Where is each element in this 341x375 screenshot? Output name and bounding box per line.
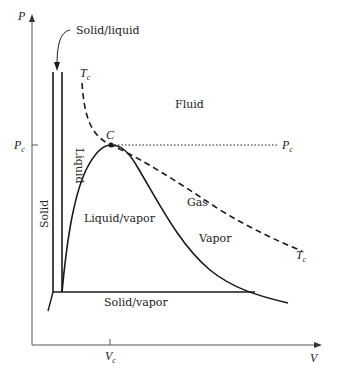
liquid-vapor-label: Liquid/vapor xyxy=(84,212,156,225)
phase-diagram: P V Pc Vc Solid/liquid Solid/vapor C Pc … xyxy=(0,0,341,375)
pc-right-label: Pc xyxy=(281,138,293,154)
fluid-label: Fluid xyxy=(175,98,204,111)
y-axis-label: P xyxy=(17,9,26,23)
liquid-label: Liquid xyxy=(73,148,86,184)
solid-liquid-label: Solid/liquid xyxy=(76,24,140,37)
x-axis-label: V xyxy=(310,351,319,365)
vapor-label: Vapor xyxy=(198,232,232,245)
vc-tick-label: Vc xyxy=(105,349,116,365)
gas-label: Gas xyxy=(187,196,208,209)
critical-point-label: C xyxy=(106,128,115,142)
solid-label: Solid xyxy=(38,200,51,228)
sublimation-stub xyxy=(48,292,53,311)
solid-vapor-label: Solid/vapor xyxy=(104,296,168,309)
tc-right-label: Tc xyxy=(296,248,307,264)
pc-tick-label: Pc xyxy=(13,138,25,154)
solid-liquid-arrowhead-icon xyxy=(54,62,60,71)
tc-top-label: Tc xyxy=(80,66,91,82)
solid-liquid-arrow xyxy=(57,30,70,66)
